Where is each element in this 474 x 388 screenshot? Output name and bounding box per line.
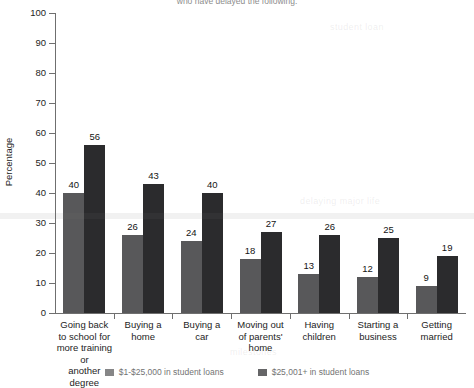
bar-high-5: [378, 238, 399, 313]
bar-value-label: 24: [186, 228, 197, 238]
bar-value-label: 56: [90, 132, 101, 142]
bar-value-label: 19: [442, 243, 453, 253]
bar-low-1: [122, 235, 143, 313]
legend-entry-0: $1-$25,000 in student loans: [105, 367, 224, 377]
x-axis-category-label: Buying ahome: [114, 319, 173, 342]
y-axis-tick: [49, 13, 55, 14]
bar-high-4: [319, 235, 340, 313]
y-axis-tick: [49, 283, 55, 284]
y-axis-tick: [49, 103, 55, 104]
legend-label: $25,001+ in student loans: [272, 367, 370, 377]
bar-value-label: 43: [148, 171, 159, 181]
y-axis-title: Percentage: [3, 138, 14, 187]
y-axis-tick-label: 80: [35, 68, 46, 78]
bar-value-label: 13: [303, 261, 314, 271]
legend-swatch-icon: [258, 369, 267, 376]
legend-swatch-icon: [105, 369, 114, 376]
bar-value-label: 25: [383, 225, 394, 235]
legend-entry-1: $25,001+ in student loans: [258, 367, 370, 377]
bar-high-2: [202, 193, 223, 313]
y-axis-tick: [49, 253, 55, 254]
bar-value-label: 18: [245, 246, 256, 256]
y-axis-tick: [49, 43, 55, 44]
y-axis-tick-label: 0: [41, 308, 46, 318]
y-axis-tick-label: 70: [35, 98, 46, 108]
bar-low-6: [416, 286, 437, 313]
bar-low-4: [298, 274, 319, 313]
bar-high-1: [143, 184, 164, 313]
bar-low-2: [181, 241, 202, 313]
y-axis-tick-label: 20: [35, 248, 46, 258]
y-axis-tick: [49, 193, 55, 194]
bar-value-label: 40: [207, 180, 218, 190]
y-axis-tick: [49, 73, 55, 74]
x-axis-category-label: Moving outof parents'home: [231, 319, 290, 354]
bar-low-3: [240, 259, 261, 313]
legend-label: $1-$25,000 in student loans: [119, 367, 224, 377]
y-axis-tick-label: 60: [35, 128, 46, 138]
bar-value-label: 9: [423, 273, 428, 283]
x-axis-category-label: Buying acar: [172, 319, 231, 342]
x-axis-category-label: Havingchildren: [290, 319, 349, 342]
y-axis-tick-label: 50: [35, 158, 46, 168]
y-axis-tick-label: 100: [30, 8, 46, 18]
y-axis-tick: [49, 223, 55, 224]
plot-area: 0102030405060708090100 40562643244018271…: [55, 13, 466, 313]
bar-value-label: 40: [69, 180, 80, 190]
chart-legend: $1-$25,000 in student loans$25,001+ in s…: [0, 367, 474, 377]
bar-value-label: 12: [362, 264, 373, 274]
y-axis-tick-label: 90: [35, 38, 46, 48]
chart-title: who have delayed the following:: [0, 0, 474, 6]
bar-high-6: [437, 256, 458, 313]
y-axis-tick: [49, 163, 55, 164]
bar-value-label: 26: [127, 222, 138, 232]
bar-low-0: [63, 193, 84, 313]
x-axis-category-label: Starting abusiness: [349, 319, 408, 342]
y-axis-tick: [49, 133, 55, 134]
bar-high-3: [261, 232, 282, 313]
bar-high-0: [84, 145, 105, 313]
x-axis-category-label: Going backto school formore training ora…: [55, 319, 114, 388]
bar-value-label: 27: [266, 219, 277, 229]
x-axis-category-label: Gettingmarried: [407, 319, 466, 342]
x-axis-line: [55, 313, 466, 314]
y-axis-tick: [49, 313, 55, 314]
bar-low-5: [357, 277, 378, 313]
y-axis-tick-label: 40: [35, 188, 46, 198]
bar-value-label: 26: [324, 222, 335, 232]
y-axis-line: [55, 13, 56, 314]
y-axis-tick-label: 30: [35, 218, 46, 228]
y-axis-tick-label: 10: [35, 278, 46, 288]
